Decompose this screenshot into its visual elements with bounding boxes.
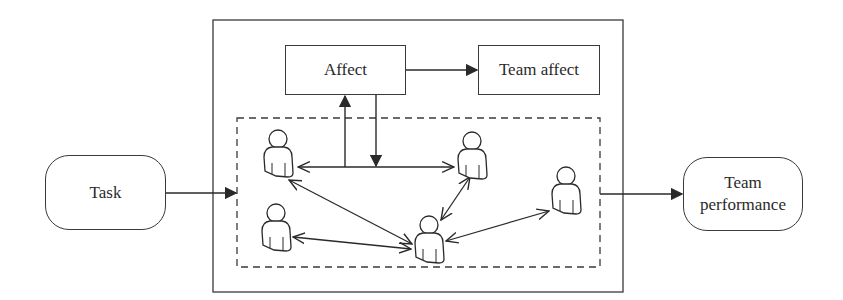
diagram-canvas <box>0 0 843 300</box>
link-member4-member5 <box>293 237 411 249</box>
team-member-2-icon <box>458 132 487 179</box>
affect-label: Affect <box>324 59 367 81</box>
link-member2-member5 <box>441 177 470 220</box>
team-affect-label: Team affect <box>499 59 579 81</box>
team-member-4-icon <box>262 204 291 251</box>
link-member3-member5 <box>446 211 549 241</box>
task-label: Task <box>90 182 122 204</box>
team-performance-label-line1: Team <box>724 172 762 194</box>
task-node: Task <box>45 155 166 230</box>
team-performance-label-line2: performance <box>700 194 786 216</box>
team-member-3-icon <box>552 167 581 214</box>
team-affect-node: Team affect <box>478 45 600 95</box>
affect-node: Affect <box>285 45 406 95</box>
team-member-1-icon <box>264 130 293 177</box>
link-member1-member5 <box>289 180 412 244</box>
team-performance-node: Team performance <box>683 157 803 231</box>
team-member-5-icon <box>415 216 444 263</box>
